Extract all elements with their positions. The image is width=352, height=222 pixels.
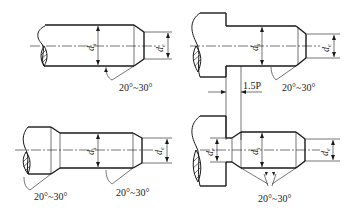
label-angle: 20°~30° <box>282 82 315 93</box>
section-hatch <box>41 46 47 66</box>
label-undercut: 1.5P <box>243 80 262 91</box>
view-bottom-left: ds de 20°~30° 20°~30° <box>15 127 172 202</box>
label-angle: 20°~30° <box>258 193 291 204</box>
label-de: de <box>153 147 165 155</box>
label-de: de <box>320 44 332 52</box>
label-ds: ds <box>85 147 97 155</box>
label-ds: ds <box>85 43 97 51</box>
diagram-stage: ds de 20°~30° <box>0 0 352 222</box>
label-de-neck: de <box>204 148 216 156</box>
label-de: de <box>319 148 331 156</box>
label-ds: ds <box>249 147 261 155</box>
section-hatch <box>23 152 30 174</box>
view-top-left: ds de 20°~30° <box>30 25 172 93</box>
section-hatch <box>193 46 201 72</box>
label-de: de <box>154 44 166 52</box>
label-ds: ds <box>249 43 261 51</box>
view-bottom-right: de ds de 20°~30° <box>192 116 340 204</box>
section-hatch <box>193 150 201 182</box>
view-top-right: ds de 20°~30° 1.5P <box>190 13 340 140</box>
label-angle-right: 20°~30° <box>116 187 149 198</box>
label-angle-left: 20°~30° <box>34 191 67 202</box>
label-angle: 20°~30° <box>119 82 152 93</box>
